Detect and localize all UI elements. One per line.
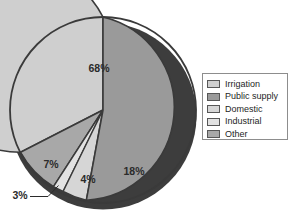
slice-label-public-supply: 18%	[123, 165, 145, 177]
pie-chart-figure: 68% 18% 4% 3% 7% Irrigation Public suppl…	[0, 0, 292, 217]
slice-label-industrial: 3%	[12, 189, 28, 201]
legend-label-industrial: Industrial	[225, 116, 262, 127]
legend-swatch-other	[207, 130, 220, 138]
legend-item-other[interactable]: Other	[207, 128, 287, 140]
legend-label-public-supply: Public supply	[225, 91, 278, 102]
legend-item-industrial[interactable]: Industrial	[207, 116, 287, 128]
legend-swatch-public-supply	[207, 93, 220, 101]
legend-label-irrigation: Irrigation	[225, 79, 260, 90]
slice-label-irrigation: 68%	[88, 62, 110, 74]
legend-swatch-irrigation	[207, 80, 220, 88]
legend-item-domestic[interactable]: Domestic	[207, 103, 287, 115]
legend-item-irrigation[interactable]: Irrigation	[207, 78, 287, 90]
legend-swatch-domestic	[207, 105, 220, 113]
slice-label-domestic: 4%	[80, 173, 96, 185]
chart-legend: Irrigation Public supply Domestic Indust…	[202, 73, 288, 140]
slice-label-other: 7%	[43, 158, 59, 170]
legend-item-public-supply[interactable]: Public supply	[207, 91, 287, 103]
legend-label-domestic: Domestic	[225, 104, 263, 115]
legend-label-other: Other	[225, 129, 248, 140]
legend-swatch-industrial	[207, 118, 220, 126]
